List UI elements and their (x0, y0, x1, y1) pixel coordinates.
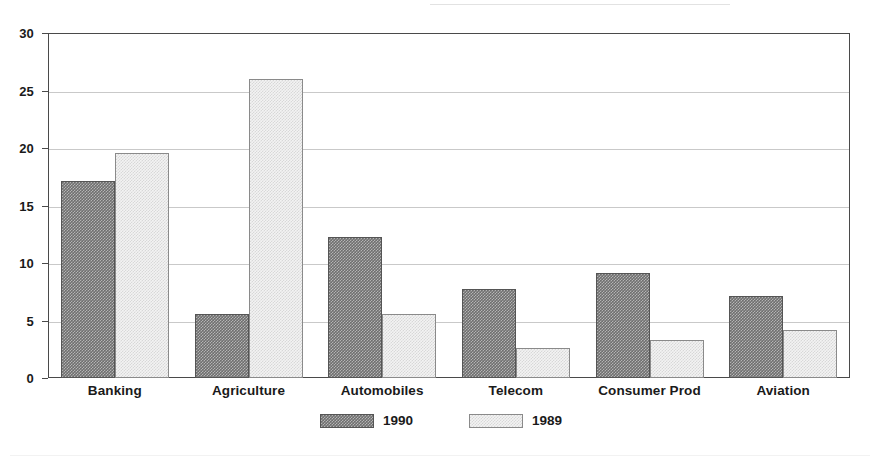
y-tick-label: 5 (27, 314, 34, 327)
y-tick-label: 10 (19, 257, 34, 270)
y-tick-label: 25 (19, 84, 34, 97)
x-tick-label: Banking (88, 384, 142, 398)
x-tick-label: Telecom (489, 384, 543, 398)
legend-label-1989: 1989 (532, 414, 562, 428)
legend-item-1990: 1990 (320, 414, 413, 428)
legend: 19901989 (0, 414, 882, 428)
y-tick-label: 30 (19, 27, 34, 40)
legend-item-1989: 1989 (469, 414, 562, 428)
y-tick-mark (42, 378, 48, 379)
plot-area (48, 33, 850, 378)
legend-label-1990: 1990 (383, 414, 413, 428)
bar-chart: 051015202530 BankingAgricultureAutomobil… (0, 0, 882, 463)
y-tick-label: 15 (19, 199, 34, 212)
gridline (49, 264, 849, 265)
scan-artifact-top (430, 4, 730, 5)
gridline (49, 92, 849, 93)
x-tick-label: Aviation (756, 384, 810, 398)
gridline (49, 207, 849, 208)
x-axis: BankingAgricultureAutomobilesTelecomCons… (48, 384, 850, 406)
scan-artifact-bottom (10, 455, 870, 456)
legend-swatch-1989 (469, 414, 523, 428)
x-tick-label: Consumer Prod (598, 384, 701, 398)
gridline (49, 149, 849, 150)
gridline (49, 322, 849, 323)
x-tick-label: Agriculture (212, 384, 285, 398)
y-tick-label: 0 (27, 372, 34, 385)
x-tick-label: Automobiles (341, 384, 424, 398)
y-tick-label: 20 (19, 142, 34, 155)
legend-swatch-1990 (320, 414, 374, 428)
y-axis: 051015202530 (0, 33, 42, 378)
